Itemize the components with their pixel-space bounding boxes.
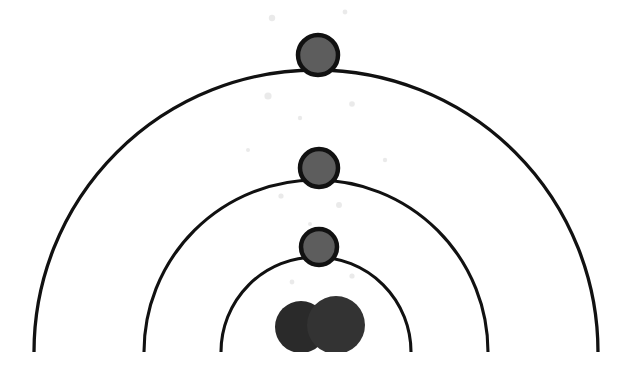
electron-outer bbox=[298, 35, 338, 75]
nucleus-group bbox=[275, 296, 365, 354]
scan-speck-9 bbox=[349, 273, 354, 278]
scan-speck-6 bbox=[336, 202, 342, 208]
scan-speck-0 bbox=[269, 15, 275, 21]
scan-speck-3 bbox=[349, 101, 355, 107]
electron-middle bbox=[300, 149, 338, 187]
scan-speck-8 bbox=[290, 280, 295, 285]
scan-speck-5 bbox=[278, 193, 283, 198]
electron-inner bbox=[301, 229, 337, 265]
scan-speck-1 bbox=[343, 10, 348, 15]
scan-speck-10 bbox=[383, 158, 387, 162]
scan-speck-2 bbox=[264, 92, 271, 99]
nucleus-particle-right bbox=[307, 296, 365, 354]
atom-diagram-svg: Bohr atomic shell diagram bbox=[0, 0, 634, 378]
scan-speck-11 bbox=[246, 148, 250, 152]
scan-speck-7 bbox=[308, 222, 312, 226]
atom-diagram-canvas: Bohr atomic shell diagram bbox=[0, 0, 634, 378]
scan-speck-4 bbox=[298, 116, 302, 120]
